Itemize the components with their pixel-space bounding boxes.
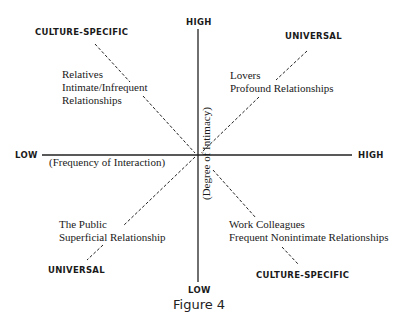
diagonal-top-left-lower — [143, 96, 195, 153]
top-left-line3: Relationships — [62, 94, 148, 107]
bottom-left-description: The Public Superficial Relationship — [59, 218, 166, 244]
vertical-axis-high-label: HIGH — [186, 17, 212, 27]
top-right-line1: Lovers — [230, 69, 334, 82]
bottom-right-line1: Work Colleagues — [229, 218, 388, 231]
bottom-left-line2: Superficial Relationship — [59, 231, 166, 244]
bottom-left-line1: The Public — [59, 218, 166, 231]
top-right-category-label: UNIVERSAL — [285, 31, 342, 41]
top-right-description: Lovers Profound Relationships — [230, 69, 334, 95]
top-left-line1: Relatives — [62, 68, 148, 81]
figure-caption: Figure 4 — [173, 297, 225, 312]
top-left-description: Relatives Intimate/Infrequent Relationsh… — [62, 68, 148, 107]
intimacy-frequency-diagram: HIGH LOW LOW HIGH (Frequency of Interact… — [0, 0, 416, 317]
horizontal-axis-title: (Frequency of Interaction) — [49, 156, 165, 169]
diagonal-bottom-right-lower — [282, 247, 298, 264]
bottom-left-category-label: UNIVERSAL — [48, 265, 105, 275]
vertical-axis-low-label: LOW — [188, 285, 211, 295]
bottom-right-description: Work Colleagues Frequent Nonintimate Rel… — [229, 218, 388, 244]
horizontal-axis-high-label: HIGH — [358, 150, 384, 160]
vertical-axis-title: (Degree of Intimacy) — [200, 107, 213, 200]
bottom-right-line2: Frequent Nonintimate Relationships — [229, 231, 388, 244]
top-left-category-label: CULTURE-SPECIFIC — [35, 27, 128, 37]
top-right-line2: Profound Relationships — [230, 82, 334, 95]
bottom-right-category-label: CULTURE-SPECIFIC — [256, 270, 349, 280]
horizontal-axis-low-label: LOW — [15, 150, 38, 160]
top-left-line2: Intimate/Infrequent — [62, 81, 148, 94]
diagonal-bottom-left-lower — [87, 245, 103, 260]
diagonal-bottom-right-upper — [213, 170, 256, 218]
